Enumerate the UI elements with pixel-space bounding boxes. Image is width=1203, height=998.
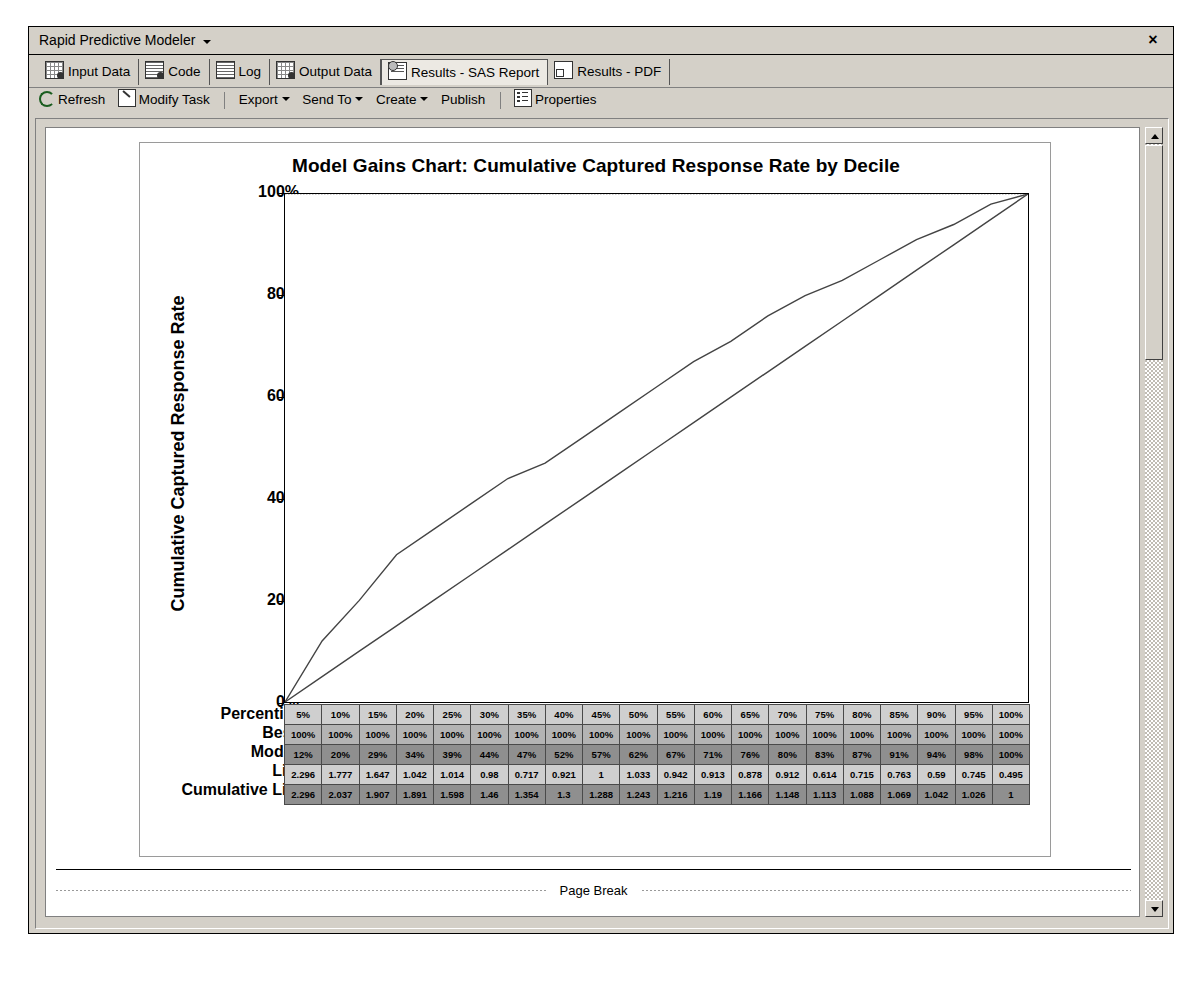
table-cell: 0.878: [732, 765, 769, 785]
modify-task-button[interactable]: Modify Task: [116, 88, 216, 112]
tab-label: Results - PDF: [577, 64, 661, 79]
y-tick-mark: [277, 499, 284, 500]
table-cell: 80%: [769, 745, 806, 765]
export-menu-button[interactable]: Export: [237, 88, 296, 112]
table-cell: 0.614: [806, 765, 843, 785]
table-cell: 83%: [806, 745, 843, 765]
properties-button[interactable]: Properties: [512, 88, 603, 112]
table-cell: 100%: [285, 725, 322, 745]
table-cell: 1.19: [694, 785, 731, 805]
modify-task-label: Modify Task: [139, 92, 210, 107]
table-cell: 0.59: [918, 765, 955, 785]
tab-results-pdf[interactable]: Results - PDF: [548, 59, 670, 85]
close-button[interactable]: ×: [1143, 29, 1163, 51]
table-cell: 100%: [992, 745, 1029, 765]
report-scroll-area[interactable]: Model Gains Chart: Cumulative Captured R…: [45, 127, 1140, 917]
tab-log[interactable]: Log: [210, 59, 271, 85]
table-cell: 100%: [992, 705, 1029, 725]
table-cell: 1: [583, 765, 620, 785]
table-cell: 20%: [322, 745, 359, 765]
publish-label: Publish: [441, 92, 485, 107]
table-cell: 0.715: [843, 765, 880, 785]
window-title: Rapid Predictive Modeler: [39, 32, 195, 48]
tab-results-sas-report[interactable]: Results - SAS Report: [381, 59, 548, 85]
arrow-up-icon: [1151, 134, 1159, 139]
table-cell: 1.891: [396, 785, 433, 805]
table-cell: 1: [992, 785, 1029, 805]
y-tick-mark: [277, 193, 284, 194]
title-dropdown-caret-icon[interactable]: [203, 40, 211, 44]
refresh-button[interactable]: Refresh: [37, 88, 111, 112]
table-cell: 0.745: [955, 765, 992, 785]
table-cell: 100%: [992, 725, 1029, 745]
table-cell: 100%: [471, 725, 508, 745]
table-cell: 1.042: [396, 765, 433, 785]
table-cell: 100%: [918, 725, 955, 745]
table-cell: 100%: [843, 725, 880, 745]
report-icon: [388, 62, 407, 80]
y-tick-mark: [277, 295, 284, 296]
y-tick-mark: [277, 601, 284, 602]
chevron-down-icon: [355, 97, 363, 101]
properties-label: Properties: [535, 92, 597, 107]
report-page-frame: Model Gains Chart: Cumulative Captured R…: [139, 142, 1051, 857]
table-cell: 1.069: [881, 785, 918, 805]
table-cell: 1.166: [732, 785, 769, 805]
table-cell: 1.907: [359, 785, 396, 805]
tab-output-data[interactable]: Output Data: [270, 59, 381, 85]
scroll-up-button[interactable]: [1145, 127, 1163, 144]
table-cell: 62%: [620, 745, 657, 765]
table-cell: 95%: [955, 705, 992, 725]
table-cell: 47%: [508, 745, 545, 765]
table-cell: 98%: [955, 745, 992, 765]
publish-button[interactable]: Publish: [439, 88, 491, 112]
table-cell: 12%: [285, 745, 322, 765]
toolbar-separator: [500, 92, 501, 109]
table-cell: 45%: [583, 705, 620, 725]
create-menu-button[interactable]: Create: [374, 88, 435, 112]
properties-icon: [514, 89, 532, 107]
table-cell: 1.354: [508, 785, 545, 805]
scrollbar-thumb[interactable]: [1145, 145, 1163, 360]
table-cell: 30%: [471, 705, 508, 725]
table-cell: 94%: [918, 745, 955, 765]
table-cell: 1.777: [322, 765, 359, 785]
table-cell: 1.014: [434, 765, 471, 785]
table-cell: 87%: [843, 745, 880, 765]
send-to-menu-button[interactable]: Send To: [300, 88, 369, 112]
table-cell: 1.042: [918, 785, 955, 805]
table-cell: 10%: [322, 705, 359, 725]
table-cell: 1.148: [769, 785, 806, 805]
tab-label: Log: [239, 64, 262, 79]
table-cell: 100%: [694, 725, 731, 745]
tab-input-data[interactable]: Input Data: [39, 59, 139, 85]
table-cell: 100%: [508, 725, 545, 745]
table-cell: 55%: [657, 705, 694, 725]
table-cell: 50%: [620, 705, 657, 725]
gains-curves: [285, 194, 1028, 702]
table-cell: 85%: [881, 705, 918, 725]
scroll-down-button[interactable]: [1145, 900, 1163, 917]
chevron-down-icon: [282, 97, 290, 101]
table-cell: 100%: [881, 725, 918, 745]
code-doc-icon: [145, 61, 164, 79]
table-cell: 1.033: [620, 765, 657, 785]
create-label: Create: [376, 92, 417, 107]
vertical-scrollbar[interactable]: [1145, 127, 1163, 917]
tab-label: Output Data: [299, 64, 372, 79]
table-cell: 2.296: [285, 765, 322, 785]
window-title-bar: Rapid Predictive Modeler ×: [29, 27, 1173, 55]
table-cell: 0.913: [694, 765, 731, 785]
report-page: Model Gains Chart: Cumulative Captured R…: [46, 128, 1139, 916]
report-toolbar: Refresh Modify Task Export Send To Creat…: [29, 87, 1173, 113]
table-cell: 35%: [508, 705, 545, 725]
plot-area: [284, 193, 1029, 703]
table-cell: 60%: [694, 705, 731, 725]
table-cell: 76%: [732, 745, 769, 765]
tab-label: Code: [168, 64, 200, 79]
table-cell: 70%: [769, 705, 806, 725]
table-cell: 25%: [434, 705, 471, 725]
tab-code[interactable]: Code: [139, 59, 209, 85]
series-line-baseline: [285, 194, 1028, 702]
table-cell: 1.46: [471, 785, 508, 805]
